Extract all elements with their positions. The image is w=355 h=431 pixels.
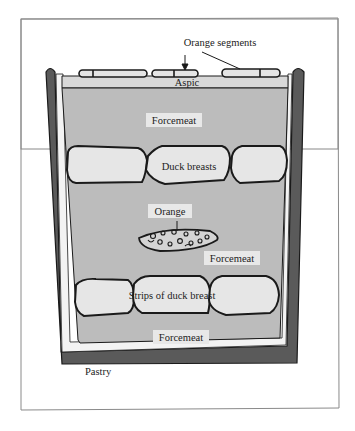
label-strips-of-duck-breast: Strips of duck breast: [129, 290, 216, 301]
label-forcemeat-middle: Forcemeat: [210, 253, 254, 264]
orange-segments-pointers: [182, 52, 240, 70]
label-duck-breasts: Duck breasts: [162, 161, 217, 172]
label-forcemeat-bottom: Forcemeat: [159, 332, 203, 343]
label-forcemeat-top: Forcemeat: [152, 115, 196, 126]
orange-segments: [79, 69, 280, 77]
label-pastry: Pastry: [85, 366, 112, 377]
terrine-diagram: Orange segments Aspic Forcemeat Duck bre…: [0, 0, 355, 431]
label-orange: Orange: [155, 206, 186, 217]
label-aspic: Aspic: [175, 77, 200, 88]
label-orange-segments: Orange segments: [184, 37, 257, 48]
